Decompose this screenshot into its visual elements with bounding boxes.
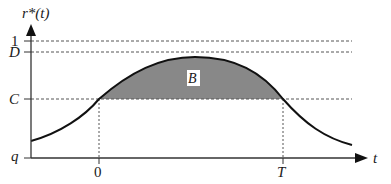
x-axis-arrow-icon	[355, 153, 368, 163]
x-axis-label: t	[373, 150, 378, 166]
y-axis-arrow-icon	[26, 24, 36, 36]
tick-t-label: T	[277, 164, 287, 180]
y-axis-label: r*(t)	[22, 5, 50, 22]
level-d-label: D	[8, 44, 20, 60]
region-b-label: B	[188, 71, 197, 86]
level-q-label: q	[11, 148, 19, 164]
level-c-label: C	[9, 91, 20, 107]
tick-0-label: 0	[94, 164, 102, 180]
diagram-canvas: r*(t) t 1 D C q 0 T B	[0, 0, 391, 184]
